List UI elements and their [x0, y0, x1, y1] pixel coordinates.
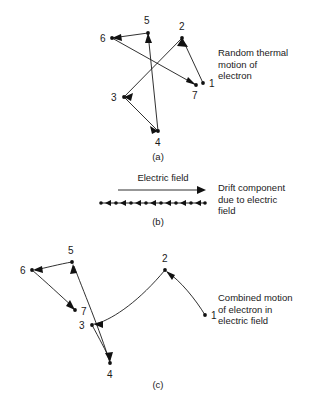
figure-root: 1 2 3 4 5 6 7 (a) [0, 0, 329, 399]
node-label-c-5: 5 [68, 245, 74, 256]
arrowhead-c-at-2 [166, 271, 175, 280]
node-a-4 [156, 129, 160, 133]
arrowhead-c-at-3 [93, 321, 103, 328]
node-c-3 [90, 323, 94, 327]
node-c-7 [73, 308, 77, 312]
note-random-thermal-motion: Random thermal motion of electron [218, 47, 324, 82]
segment-a-4-5 [148, 33, 158, 131]
node-label-c-2: 2 [162, 253, 168, 264]
node-label-a-3: 3 [111, 92, 117, 103]
drift-arrowhead-3 [135, 200, 141, 206]
drift-arrowhead-4 [150, 200, 156, 206]
node-label-c-6: 6 [20, 265, 26, 276]
node-label-a-1: 1 [209, 78, 215, 89]
node-c-1 [203, 313, 207, 317]
node-c-5 [70, 260, 74, 264]
caption-a: (a) [152, 151, 164, 162]
drift-dot-3 [129, 201, 133, 205]
node-a-1 [201, 81, 205, 85]
node-label-a-5: 5 [144, 15, 150, 26]
node-label-a-2: 2 [179, 21, 185, 32]
drift-dot-5 [159, 201, 163, 205]
drift-dot-4 [144, 201, 148, 205]
note-combined-motion: Combined motion of electron in electric … [218, 292, 324, 327]
node-label-a-7: 7 [192, 90, 198, 101]
drift-arrowhead-2 [120, 200, 126, 206]
panel-c-group: 1 2 3 4 5 6 7 (c) [20, 245, 217, 390]
node-a-3 [122, 95, 126, 99]
drift-dot-6 [174, 201, 178, 205]
segment-a-2-3 [124, 38, 182, 97]
drift-arrowhead-7 [195, 200, 201, 206]
node-c-4 [108, 361, 112, 365]
panel-a-group: 1 2 3 4 5 6 7 (a) [100, 15, 215, 162]
note-drift-component: Drift component due to electric field [218, 182, 324, 217]
electric-field-arrow-icon [197, 186, 206, 194]
drift-markers [99, 200, 207, 206]
node-label-c-7: 7 [81, 306, 87, 317]
node-label-c-3: 3 [79, 320, 85, 331]
segment-a-3-4 [124, 97, 158, 131]
drift-arrowhead-1 [105, 200, 111, 206]
node-label-c-1: 1 [211, 310, 217, 321]
drift-dot-2 [114, 201, 118, 205]
segment-c-6-7 [32, 270, 73, 307]
caption-c: (c) [152, 379, 163, 390]
arrowhead-a-at-7 [186, 77, 196, 85]
electric-field-label: Electric field [118, 172, 208, 183]
segment-c-2-3 [96, 270, 165, 324]
node-a-5 [146, 31, 150, 35]
node-a-6 [110, 36, 114, 40]
node-c-6 [30, 268, 34, 272]
drift-dot-1 [99, 201, 103, 205]
arrowhead-c-at-5 [70, 264, 77, 274]
drift-dot-8 [203, 201, 207, 205]
drift-arrowhead-6 [180, 200, 186, 206]
drift-arrowhead-5 [165, 200, 171, 206]
node-a-2 [180, 36, 184, 40]
node-c-2 [163, 268, 167, 272]
caption-b: (b) [152, 216, 164, 227]
node-a-7 [194, 83, 198, 87]
node-label-c-4: 4 [107, 369, 113, 380]
panel-b-group: (b) [99, 186, 207, 227]
drift-dot-7 [189, 201, 193, 205]
node-label-a-4: 4 [155, 137, 161, 148]
node-label-a-6: 6 [100, 33, 106, 44]
